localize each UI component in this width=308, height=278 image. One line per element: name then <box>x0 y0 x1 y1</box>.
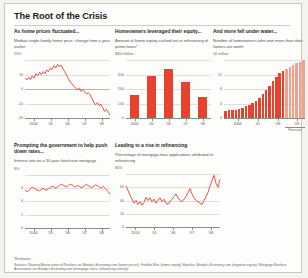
bar-forecast <box>295 63 297 118</box>
x-axis-tick-label: 2004 <box>29 231 37 235</box>
x-axis-tick-label: '09 <box>294 122 299 126</box>
footnote-sources: Sources: National Association of Realtor… <box>14 263 298 272</box>
infographic-page: The Root of the Crisis As home prices fl… <box>0 0 308 278</box>
bar <box>272 81 274 118</box>
chart-mortgage-rate: 8%64202004'05'06'07'08 <box>14 168 110 241</box>
panel-kicker: And more fell under water... <box>213 28 305 34</box>
x-axis-tick-label: '07 <box>255 122 260 126</box>
bar <box>198 97 207 118</box>
x-axis-tick-label: '05 <box>152 231 157 235</box>
x-axis-tick-label: '05 <box>149 122 154 126</box>
bar-forecast <box>289 67 291 118</box>
bar <box>224 111 226 118</box>
x-axis-tick-label: '06 <box>65 231 70 235</box>
axis-unit-label: $400 billion <box>115 52 134 56</box>
x-axis-tick-label: '06 <box>65 122 70 126</box>
x-axis-tick-label: '08 <box>276 122 281 126</box>
bar <box>164 69 173 118</box>
chart-refinancing: 80%60402002004'05'06'07'08 <box>115 167 220 240</box>
panel-deck: Number of homeowners who owe more than t… <box>213 38 305 49</box>
bar <box>241 108 243 118</box>
line-series <box>14 53 110 120</box>
charts-row-top: As home prices fluctuated... Median sing… <box>14 28 302 146</box>
y-axis-tick-label: 300 <box>115 73 124 77</box>
y-axis-tick-label: 0 <box>213 116 222 120</box>
bar <box>268 86 270 118</box>
panel-deck: Percentage of mortgage-loan applications… <box>115 152 220 163</box>
title-divider <box>14 25 290 26</box>
bar-forecast <box>285 69 287 118</box>
panel-home-equity: Homeowners leveraged their equity... Amo… <box>115 28 211 131</box>
x-axis-tick-label: 2004 <box>29 122 37 126</box>
axis-unit-label: 16 million <box>213 52 229 56</box>
x-axis-tick-label: '07 <box>82 122 87 126</box>
forecast-label: Forecast <box>288 128 301 132</box>
y-axis-tick-label: 4 <box>213 102 222 106</box>
x-axis-line <box>224 118 305 119</box>
x-axis-tick-label: '06 <box>171 231 176 235</box>
x-axis-tick-label: '05 <box>48 231 53 235</box>
bar <box>275 77 277 118</box>
y-axis-tick-label: 200 <box>115 87 124 91</box>
page-content: The Root of the Crisis As home prices fl… <box>14 11 302 273</box>
bar <box>231 110 233 118</box>
x-axis-tick-label: '07 <box>82 231 87 235</box>
chart-home-equity: $400 billion30020010002004'05'06'07'08 <box>115 53 211 131</box>
page-title: The Root of the Crisis <box>14 11 302 22</box>
y-axis-tick-label: 8 <box>213 87 222 91</box>
x-axis-tick-label: '08 <box>208 231 213 235</box>
x-axis-tick-label: 2006 <box>233 122 241 126</box>
panel-kicker: As home prices fluctuated... <box>14 28 110 34</box>
bar <box>262 94 264 118</box>
bar <box>255 101 257 118</box>
gridline <box>224 60 305 61</box>
bar-forecast <box>302 60 304 118</box>
y-axis-tick-label: 0 <box>115 116 124 120</box>
footnote-asterisk: *Estimates <box>14 257 31 261</box>
gridline <box>126 60 211 61</box>
charts-row-bottom: Prompting the government to help push do… <box>14 142 302 254</box>
line-series <box>14 168 110 230</box>
x-axis-tick-label: '08 <box>200 122 205 126</box>
panel-mortgage-rate: Prompting the government to help push do… <box>14 142 110 241</box>
line-series <box>115 167 220 229</box>
bar <box>265 90 267 118</box>
bar <box>130 95 139 118</box>
panel-home-prices: As home prices fluctuated... Median sing… <box>14 28 110 131</box>
panel-kicker: Homeowners leveraged their equity... <box>115 28 211 34</box>
x-axis-tick-label: '08 <box>99 231 104 235</box>
chart-underwater: 16 million128402006'07'08'09Forecast <box>213 53 305 131</box>
bar <box>282 71 284 118</box>
x-axis-tick-label: '05 <box>48 122 53 126</box>
page-sheet: The Root of the Crisis As home prices fl… <box>4 3 302 273</box>
bar <box>248 105 250 118</box>
bar <box>228 110 230 118</box>
bar <box>147 76 156 118</box>
panel-kicker: Prompting the government to help push do… <box>14 142 110 154</box>
x-axis-tick-label: '06 <box>166 122 171 126</box>
x-axis-tick-label: '08 <box>99 122 104 126</box>
x-axis-tick-label: '07 <box>189 231 194 235</box>
x-axis-tick-label: '07 <box>183 122 188 126</box>
bar <box>278 73 280 118</box>
bar <box>238 109 240 118</box>
panel-deck: Median single-family home price, change … <box>14 38 110 49</box>
bar <box>258 98 260 118</box>
bar <box>245 106 247 118</box>
x-axis-tick-label: 2004 <box>130 122 138 126</box>
y-axis-tick-label: 100 <box>115 102 124 106</box>
bar <box>181 82 190 118</box>
x-axis-tick-label: 2004 <box>131 231 139 235</box>
panel-deck: Interest rate on a 30-year fixed-rate mo… <box>14 158 110 163</box>
bar-forecast <box>292 65 294 118</box>
chart-home-prices: 20%100-10-202004'05'06'07'08 <box>14 53 110 131</box>
panel-underwater: And more fell under water... Number of h… <box>213 28 305 131</box>
panel-kicker: Leading to a rise in refinancing <box>115 142 220 148</box>
bar <box>235 110 237 118</box>
bar <box>251 103 253 118</box>
y-axis-tick-label: 12 <box>213 73 222 77</box>
panel-refinancing: Leading to a rise in refinancing Percent… <box>115 142 220 240</box>
bar-forecast <box>299 62 301 118</box>
panel-deck: Amount of home-equity cashed out in refi… <box>115 38 211 49</box>
